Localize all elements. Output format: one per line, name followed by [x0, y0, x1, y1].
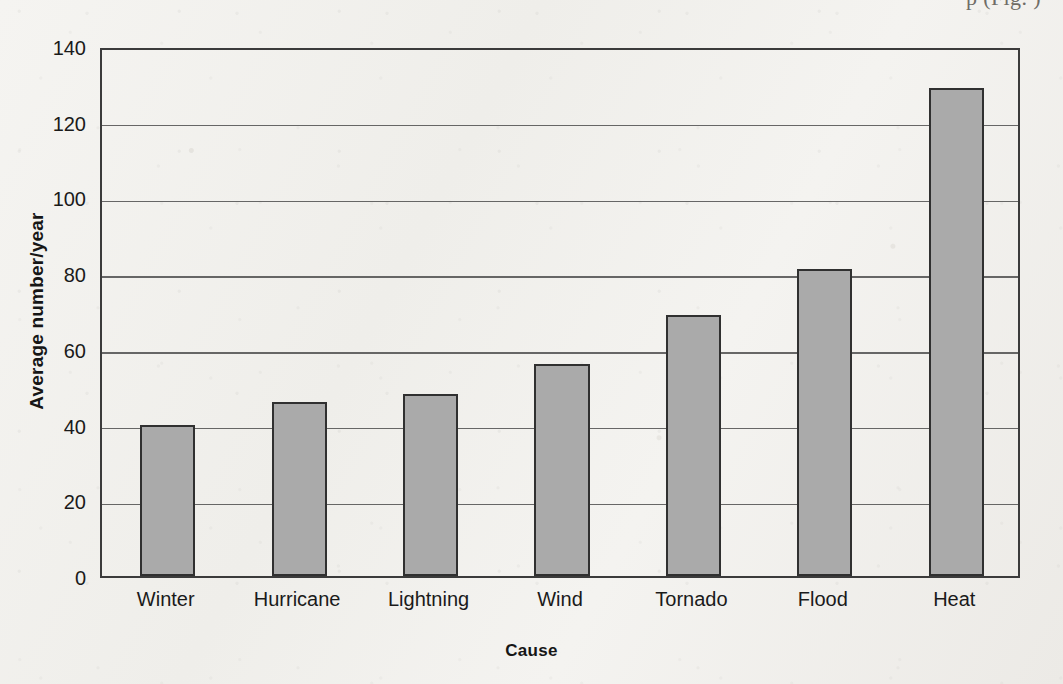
bar-tornado [666, 315, 721, 576]
bar-hurricane [272, 402, 327, 576]
y-axis-ticks: 020406080100120140 [0, 48, 86, 578]
bar-lightning [403, 394, 458, 576]
x-axis-tick-label: Tornado [655, 588, 727, 611]
gridline [102, 276, 1018, 277]
scanned-page: p (Fig. ) Average number/year 0204060801… [0, 0, 1063, 684]
x-axis-tick-label: Winter [137, 588, 195, 611]
x-axis-tick-label: Wind [537, 588, 583, 611]
y-axis-tick-label: 20 [24, 491, 86, 514]
y-axis-tick-label: 0 [24, 567, 86, 590]
y-axis-tick-label: 80 [24, 264, 86, 287]
bar-wind [534, 364, 589, 576]
gridline [102, 201, 1018, 202]
bar-flood [797, 269, 852, 576]
gridline [102, 125, 1018, 126]
x-axis-tick-label: Lightning [388, 588, 469, 611]
plot-area [100, 48, 1020, 578]
x-axis-tick-label: Heat [933, 588, 975, 611]
y-axis-tick-label: 60 [24, 339, 86, 362]
bar-heat [929, 88, 984, 576]
x-axis-title: Cause [0, 641, 1063, 661]
y-axis-tick-label: 120 [24, 112, 86, 135]
bar-chart: Average number/year 020406080100120140 C… [0, 0, 1063, 684]
x-axis-tick-label: Hurricane [254, 588, 341, 611]
x-axis-tick-label: Flood [798, 588, 848, 611]
y-axis-tick-label: 40 [24, 415, 86, 438]
gridline [102, 352, 1018, 353]
y-axis-tick-label: 140 [24, 37, 86, 60]
bar-winter [140, 425, 195, 576]
y-axis-tick-label: 100 [24, 188, 86, 211]
